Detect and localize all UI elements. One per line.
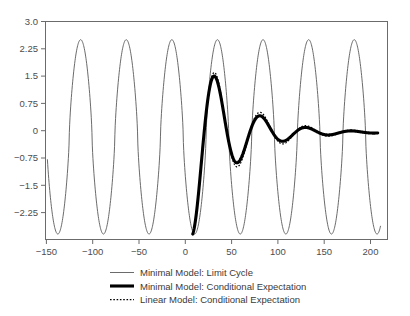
- x-tick-label: 0: [183, 246, 188, 257]
- y-tick-label: −0.75: [14, 152, 38, 163]
- x-tick-label: −150: [36, 246, 57, 257]
- y-tick-label: 0.75: [20, 98, 39, 109]
- chart-figure: 3.0 2.25 1.5 0.75 0 −0.75 −1.5 −2.25 −15…: [0, 0, 410, 316]
- legend-label-minimal-conditional-expectation: Minimal Model: Conditional Expectation: [140, 281, 306, 292]
- x-tick-label: −100: [82, 246, 103, 257]
- legend-label-linear-conditional-expectation: Linear Model: Conditional Expectation: [140, 294, 300, 305]
- y-tick-label: −2.25: [14, 207, 38, 218]
- y-tick-label: 3.0: [25, 16, 38, 27]
- y-tick-label: 2.25: [20, 43, 39, 54]
- x-tick-label: 100: [270, 246, 286, 257]
- legend-label-limit-cycle: Minimal Model: Limit Cycle: [140, 267, 253, 278]
- chart-canvas: 3.0 2.25 1.5 0.75 0 −0.75 −1.5 −2.25 −15…: [0, 0, 410, 316]
- x-tick-label: 200: [363, 246, 379, 257]
- y-tick-label: −1.5: [19, 180, 38, 191]
- x-tick-label: 150: [316, 246, 332, 257]
- x-tick-label: 50: [226, 246, 237, 257]
- y-tick-label: 0: [33, 125, 38, 136]
- y-tick-label: 1.5: [25, 70, 38, 81]
- x-tick-label: −50: [131, 246, 147, 257]
